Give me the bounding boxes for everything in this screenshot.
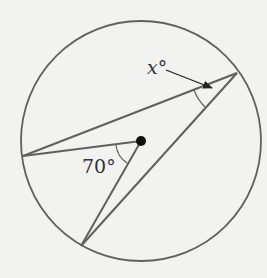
diagram-svg: x° 70° <box>0 0 267 278</box>
x-angle-label: x° <box>147 56 167 78</box>
geometry-diagram: x° 70° <box>0 0 267 278</box>
x-pointer-arrow <box>166 70 212 88</box>
center-point <box>136 136 146 146</box>
central-angle-arc <box>116 145 127 163</box>
central-angle-label: 70° <box>82 155 116 177</box>
inscribed-angle-arc <box>194 90 205 107</box>
